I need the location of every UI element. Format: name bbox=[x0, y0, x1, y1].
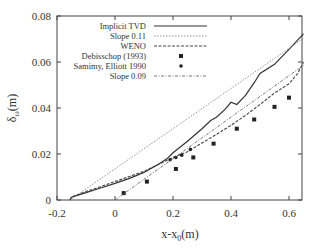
legend-label-implicit-tvd: Implicit TVD bbox=[100, 21, 146, 31]
y-tick-label: 0.02 bbox=[32, 148, 51, 160]
data-point-debisschop-1993 bbox=[174, 167, 178, 171]
chart-container: -0.200.20.40.6 00.020.040.060.08 Implici… bbox=[0, 0, 320, 250]
legend: Implicit TVDSlope 0.11WENODebisschop (19… bbox=[74, 21, 207, 81]
data-point-debisschop-1993 bbox=[191, 155, 195, 159]
x-tick-label: 0.4 bbox=[224, 207, 238, 219]
data-point-samimy-elliott-1990 bbox=[180, 153, 184, 157]
data-point-samimy-elliott-1990 bbox=[189, 148, 193, 152]
legend-label-slope-0-09: Slope 0.09 bbox=[110, 71, 146, 81]
data-point-debisschop-1993 bbox=[235, 127, 239, 131]
legend-label-slope-0-11: Slope 0.11 bbox=[110, 31, 146, 41]
series-line-weno bbox=[70, 62, 304, 200]
data-point-debisschop-1993 bbox=[145, 180, 149, 184]
chart-svg: -0.200.20.40.6 00.020.040.060.08 Implici… bbox=[0, 0, 320, 250]
y-tick-label: 0.06 bbox=[32, 56, 52, 68]
data-point-debisschop-1993 bbox=[252, 118, 256, 122]
x-tick-label: 0.2 bbox=[166, 207, 180, 219]
x-tick-label: 0.6 bbox=[282, 207, 296, 219]
legend-marker-debisschop-1993 bbox=[179, 54, 183, 58]
x-axis-label: x-x0(m) bbox=[161, 227, 198, 243]
x-tick-labels: -0.200.20.40.6 bbox=[48, 207, 296, 219]
y-tick-label: 0.04 bbox=[32, 102, 52, 114]
legend-label-samimy-elliott-1990: Samimy, Elliott 1990 bbox=[74, 61, 146, 71]
data-point-debisschop-1993 bbox=[287, 96, 291, 100]
axis-ticks bbox=[57, 16, 302, 200]
legend-label-weno: WENO bbox=[121, 41, 147, 51]
legend-label-debisschop-1993: Debisschop (1993) bbox=[82, 51, 147, 61]
legend-marker-samimy-elliott-1990 bbox=[179, 64, 183, 68]
y-axis-label: δω(m) bbox=[5, 94, 21, 122]
series-line-slope-0-09 bbox=[115, 65, 304, 200]
plot-frame bbox=[57, 16, 302, 200]
data-point-debisschop-1993 bbox=[273, 105, 277, 109]
y-tick-labels: 00.020.040.060.08 bbox=[32, 10, 52, 206]
data-point-samimy-elliott-1990 bbox=[168, 158, 172, 162]
x-tick-label: 0 bbox=[112, 207, 118, 219]
x-tick-label: -0.2 bbox=[48, 207, 65, 219]
data-point-debisschop-1993 bbox=[212, 142, 216, 146]
y-tick-label: 0.08 bbox=[32, 10, 52, 22]
y-tick-label: 0 bbox=[46, 194, 52, 206]
